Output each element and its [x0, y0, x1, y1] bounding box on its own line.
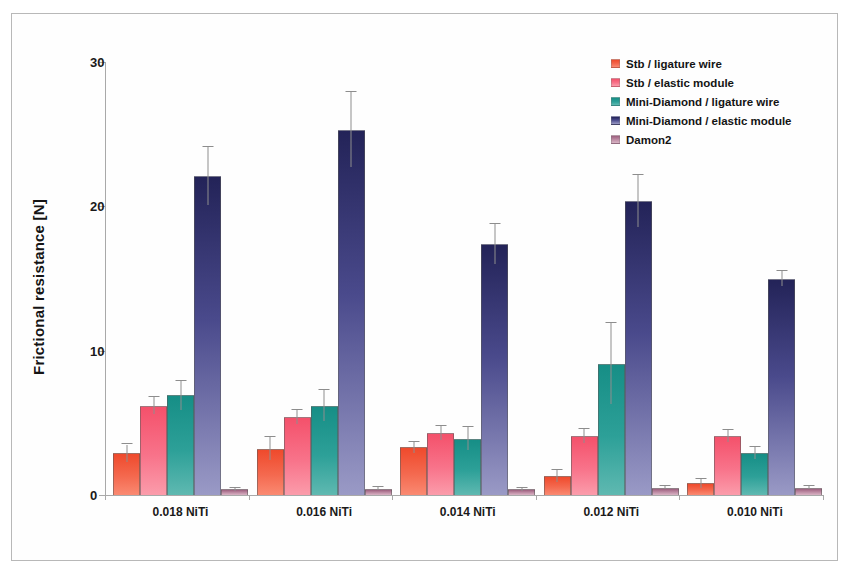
error-bar: [194, 62, 221, 495]
x-tick: [249, 495, 250, 500]
legend-item: Mini-Diamond / ligature wire: [611, 92, 792, 111]
error-bar: [571, 62, 598, 495]
legend-item: Stb / ligature wire: [611, 54, 792, 73]
x-tick-label: 0.016 NiTi: [296, 505, 352, 519]
error-bar: [544, 62, 571, 495]
legend-label: Stb / ligature wire: [626, 58, 722, 70]
error-bar: [284, 62, 311, 495]
y-tick-label-20: 20: [90, 199, 93, 214]
y-tick-label-0: 0: [90, 488, 93, 503]
y-tick-label-10: 10: [90, 343, 93, 358]
legend-item: Mini-Diamond / elastic module: [611, 111, 792, 130]
x-tick-label: 0.010 NiTi: [727, 505, 783, 519]
y-axis-title: Frictional resistance [N]: [30, 199, 47, 375]
x-tick: [679, 495, 680, 500]
error-bar: [311, 62, 338, 495]
legend-swatch-icon: [611, 59, 620, 68]
legend-label: Stb / elastic module: [626, 77, 734, 89]
x-tick-label: 0.014 NiTi: [440, 505, 496, 519]
error-bar: [221, 62, 248, 495]
y-tick-label-30: 30: [90, 55, 93, 70]
error-bar: [257, 62, 284, 495]
chart-legend: Stb / ligature wireStb / elastic moduleM…: [611, 54, 792, 149]
x-tick: [392, 495, 393, 500]
legend-label: Mini-Diamond / elastic module: [626, 115, 792, 127]
error-bar: [140, 62, 167, 495]
legend-swatch-icon: [611, 135, 620, 144]
error-bar: [795, 62, 822, 495]
error-bar: [338, 62, 365, 495]
error-bar: [400, 62, 427, 495]
y-axis-line: [105, 62, 106, 495]
error-bar: [167, 62, 194, 495]
x-tick: [823, 495, 824, 500]
error-bar: [454, 62, 481, 495]
legend-swatch-icon: [611, 116, 620, 125]
chart-figure: 0102030 0.018 NiTi0.016 NiTi0.014 NiTi0.…: [0, 0, 851, 573]
x-axis-line: [105, 495, 823, 496]
error-bar: [481, 62, 508, 495]
legend-swatch-icon: [611, 78, 620, 87]
legend-item: Stb / elastic module: [611, 73, 792, 92]
error-bar: [113, 62, 140, 495]
error-bar: [508, 62, 535, 495]
x-tick-label: 0.018 NiTi: [153, 505, 209, 519]
legend-swatch-icon: [611, 97, 620, 106]
x-tick: [536, 495, 537, 500]
x-tick-label: 0.012 NiTi: [583, 505, 639, 519]
legend-item: Damon2: [611, 130, 792, 149]
legend-label: Damon2: [626, 134, 671, 146]
error-bar: [365, 62, 392, 495]
error-bar: [427, 62, 454, 495]
legend-label: Mini-Diamond / ligature wire: [626, 96, 779, 108]
x-tick: [105, 495, 106, 500]
